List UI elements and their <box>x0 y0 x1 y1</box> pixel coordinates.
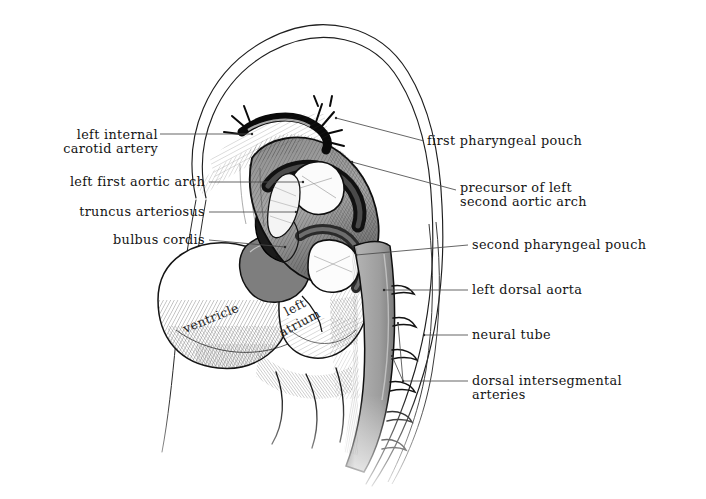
label-precursor-of-left-second-aortic-arch: precursor of leftsecond aortic arch <box>460 181 587 208</box>
label-text-line1: dorsal intersegmental <box>472 373 622 388</box>
label-text-line1: left dorsal aorta <box>472 282 582 297</box>
leader-first-pharyngeal-pouch <box>336 118 424 141</box>
leader-endpoint-precursor-of-left-second-aortic-arch <box>351 161 353 163</box>
leader-endpoint-bulbus-cordis <box>284 246 286 248</box>
label-text-line2: carotid artery <box>63 142 158 156</box>
label-text-line2: arteries <box>472 388 622 402</box>
label-text-line1: left first aortic arch <box>70 174 205 189</box>
leader-endpoint-left-dorsal-aorta <box>383 289 385 291</box>
label-text-line1: left internal <box>77 127 158 142</box>
leader-endpoint-first-pharyngeal-pouch <box>335 117 337 119</box>
bottom-fade <box>0 395 706 499</box>
label-neural-tube: neural tube <box>472 328 551 342</box>
label-text-line1: precursor of left <box>460 180 572 195</box>
label-text-line1: second pharyngeal pouch <box>472 237 646 252</box>
second-pharyngeal-pouch <box>308 240 359 292</box>
label-left-first-aortic-arch: left first aortic arch <box>70 175 205 189</box>
label-left-dorsal-aorta: left dorsal aorta <box>472 283 582 297</box>
label-bulbus-cordis: bulbus cordis <box>113 233 205 247</box>
leader-endpoint-left-internal-carotid-artery <box>251 133 253 135</box>
label-first-pharyngeal-pouch: first pharyngeal pouch <box>427 134 582 148</box>
label-text-line1: neural tube <box>472 327 551 342</box>
leader-endpoint-neural-tube <box>423 334 425 336</box>
label-text-line1: truncus arteriosus <box>79 204 205 219</box>
leader-endpoint-second-pharyngeal-pouch <box>355 254 357 256</box>
leader-endpoint-left-first-aortic-arch <box>302 181 304 183</box>
label-left-internal-carotid-artery: left internalcarotid artery <box>63 128 158 155</box>
label-text-line1: bulbus cordis <box>113 232 205 247</box>
label-second-pharyngeal-pouch: second pharyngeal pouch <box>472 238 646 252</box>
label-dorsal-intersegmental-arteries: dorsal intersegmentalarteries <box>472 374 622 401</box>
label-text-line2: second aortic arch <box>460 195 587 209</box>
label-truncus-arteriosus: truncus arteriosus <box>79 205 205 219</box>
label-text-line1: first pharyngeal pouch <box>427 133 582 148</box>
leader-endpoint-truncus-arteriosus <box>295 211 297 213</box>
